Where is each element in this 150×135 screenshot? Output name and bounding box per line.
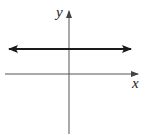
- x-axis-label: x: [131, 75, 139, 91]
- y-axis-label: y: [54, 4, 63, 20]
- coordinate-plane: y x: [0, 0, 150, 135]
